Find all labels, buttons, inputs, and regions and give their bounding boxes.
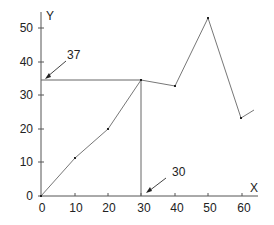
annotation-37: 37 — [45, 48, 81, 79]
svg-text:30: 30 — [172, 165, 186, 179]
svg-text:10: 10 — [20, 155, 34, 169]
svg-text:20: 20 — [102, 201, 116, 215]
x-axis-label: X — [250, 181, 258, 195]
line-chart: Y X 0 10 20 30 40 50 0 10 20 30 40 50 60 — [0, 0, 274, 225]
data-series-line — [41, 18, 254, 196]
svg-text:40: 40 — [20, 55, 34, 69]
y-tick-labels: 0 10 20 30 40 50 — [20, 21, 34, 203]
svg-text:0: 0 — [39, 201, 46, 215]
svg-text:50: 50 — [20, 21, 34, 35]
svg-text:40: 40 — [170, 201, 184, 215]
x-tick-labels: 0 10 20 30 40 50 60 — [39, 201, 251, 215]
annotation-30: 30 — [146, 165, 186, 193]
y-axis-label: Y — [46, 9, 54, 23]
svg-text:0: 0 — [26, 189, 33, 203]
svg-text:10: 10 — [69, 201, 83, 215]
svg-text:30: 30 — [20, 88, 34, 102]
arrow-head-icon — [146, 187, 152, 193]
svg-text:60: 60 — [237, 201, 251, 215]
svg-text:37: 37 — [67, 48, 81, 62]
svg-text:50: 50 — [203, 201, 217, 215]
svg-text:20: 20 — [20, 122, 34, 136]
svg-text:30: 30 — [137, 201, 151, 215]
